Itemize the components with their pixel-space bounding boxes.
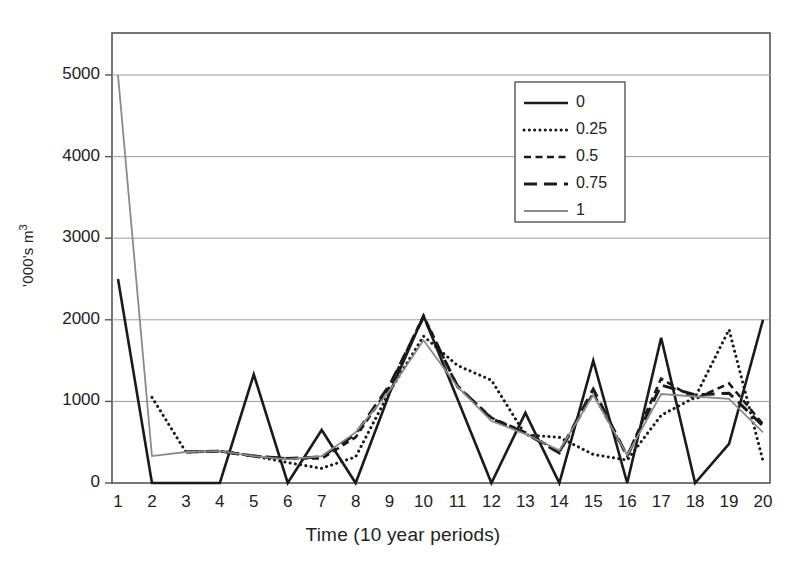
chart-legend (515, 82, 625, 222)
y-tick-label: 2000 (30, 309, 100, 329)
y-tick-label: 4000 (30, 146, 100, 166)
y-tick-label: 3000 (30, 227, 100, 247)
data-series-group (118, 75, 763, 483)
legend-label-0-75: 0.75 (576, 174, 607, 192)
y-axis-title: '000's m3 (17, 196, 36, 316)
x-tick-label: 20 (743, 492, 783, 512)
plot-area-border (112, 33, 770, 483)
y-tick-label: 1000 (30, 390, 100, 410)
y-axis-title-superscript: 3 (17, 224, 29, 230)
y-tick-marks (105, 75, 112, 483)
x-axis-title: Time (10 year periods) (0, 524, 806, 546)
legend-label-1: 1 (576, 201, 585, 219)
legend-label-0-25: 0.25 (576, 120, 607, 138)
legend-label-0-5: 0.5 (576, 147, 598, 165)
y-tick-label: 5000 (30, 64, 100, 84)
legend-label-0: 0 (576, 93, 585, 111)
y-tick-label: 0 (30, 472, 100, 492)
chart-figure: Time (10 year periods) '000's m3 0100020… (0, 0, 806, 582)
